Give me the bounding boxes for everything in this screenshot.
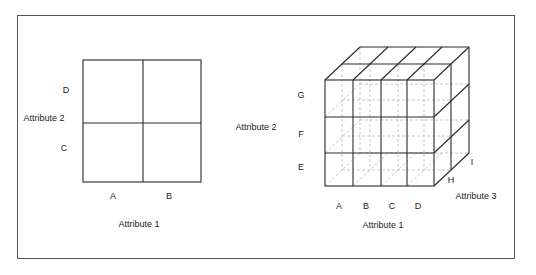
cube-axis-title-attribute-2: Attribute 2: [235, 122, 276, 132]
cube-label-d: D: [415, 201, 422, 211]
cube-axis-title-attribute-3: Attribute 3: [455, 191, 496, 201]
cube-label-a: A: [336, 201, 342, 211]
cube-label-f: F: [298, 129, 304, 139]
left-label-b: B: [166, 191, 172, 201]
left-label-d: D: [63, 85, 70, 95]
cube-axis-title-attribute-1: Attribute 1: [362, 220, 403, 230]
left-axis-title-attribute-1: Attribute 1: [118, 219, 159, 229]
left-label-a: A: [110, 191, 116, 201]
cube-label-b: B: [363, 201, 369, 211]
cube-label-i: I: [471, 157, 474, 167]
left-2d-grid: [83, 60, 201, 182]
cube-label-c: C: [389, 201, 396, 211]
left-label-c: C: [61, 143, 68, 153]
diagram-canvas: [0, 0, 536, 275]
cube-label-h: H: [448, 175, 455, 185]
left-axis-title-attribute-2: Attribute 2: [23, 113, 64, 123]
cube-label-e: E: [298, 162, 304, 172]
cube-label-g: G: [297, 90, 304, 100]
